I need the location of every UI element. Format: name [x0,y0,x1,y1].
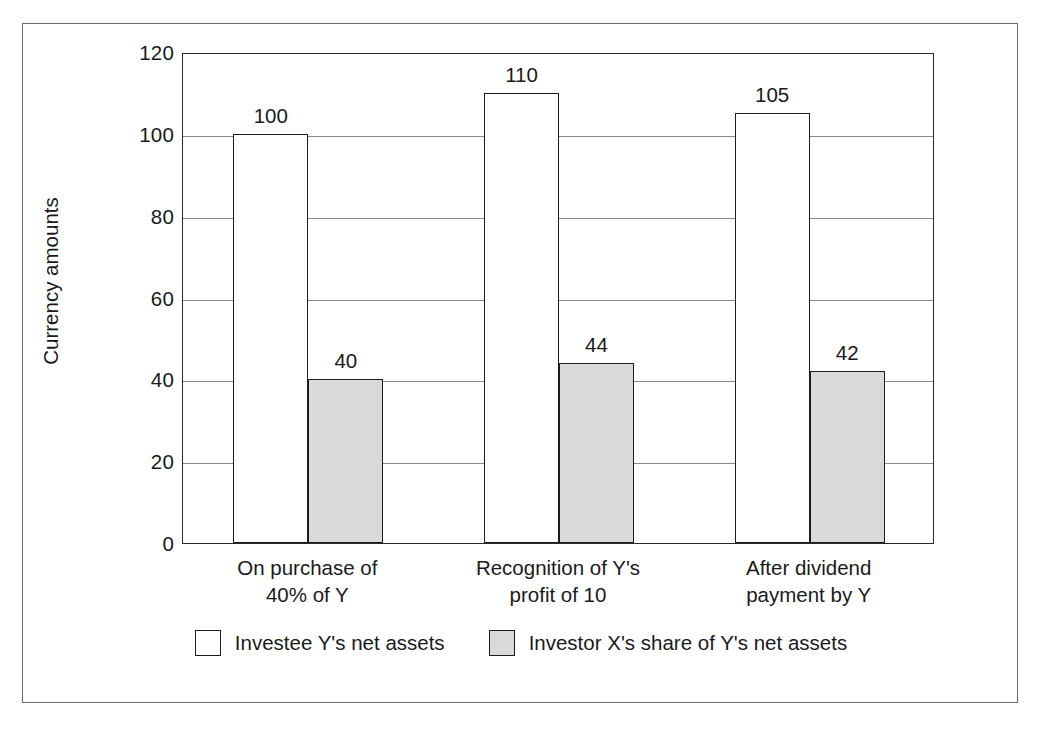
bar-value-label: 110 [505,63,538,87]
bar-investee-3[interactable] [735,113,810,543]
y-axis-title: Currency amounts [39,116,63,446]
y-tick-label: 100 [128,123,174,147]
y-tick-label: 120 [128,41,174,65]
bar-value-label: 42 [836,341,859,365]
legend-label: Investor X's share of Y's net assets [529,631,848,655]
category-label-1: On purchase of40% of Y [237,554,377,608]
category-label-line: profit of 10 [476,581,640,608]
legend-swatch-gray [489,630,515,656]
chart-legend: Investee Y's net assetsInvestor X's shar… [23,630,1019,656]
bar-investee-1[interactable] [233,134,308,543]
legend-swatch-white [195,630,221,656]
bar-investor-1[interactable] [308,379,383,543]
bar-investor-3[interactable] [810,371,885,543]
y-tick-label: 40 [128,368,174,392]
category-label-line: Recognition of Y's [476,554,640,581]
y-tick-label: 0 [128,532,174,556]
y-tick-label: 20 [128,450,174,474]
y-tick-label: 80 [128,205,174,229]
plot-area: 100401104410542 [182,53,934,544]
bar-investee-2[interactable] [484,93,559,543]
category-label-line: 40% of Y [237,581,377,608]
category-label-3: After dividendpayment by Y [746,554,871,608]
category-label-line: payment by Y [746,581,871,608]
bar-value-label: 105 [755,83,789,107]
chart-figure: Currency amounts 020406080100120 1004011… [22,23,1018,703]
category-label-line: On purchase of [237,554,377,581]
category-label-2: Recognition of Y'sprofit of 10 [476,554,640,608]
legend-item-1[interactable]: Investee Y's net assets [195,630,445,656]
category-label-line: After dividend [746,554,871,581]
legend-label: Investee Y's net assets [235,631,445,655]
bar-investor-2[interactable] [559,363,634,543]
bar-value-label: 44 [585,333,608,357]
bar-value-label: 100 [254,104,288,128]
legend-item-2[interactable]: Investor X's share of Y's net assets [489,630,848,656]
y-tick-label: 60 [128,287,174,311]
bar-value-label: 40 [334,349,357,373]
y-axis-tick-labels: 020406080100120 [118,53,174,544]
